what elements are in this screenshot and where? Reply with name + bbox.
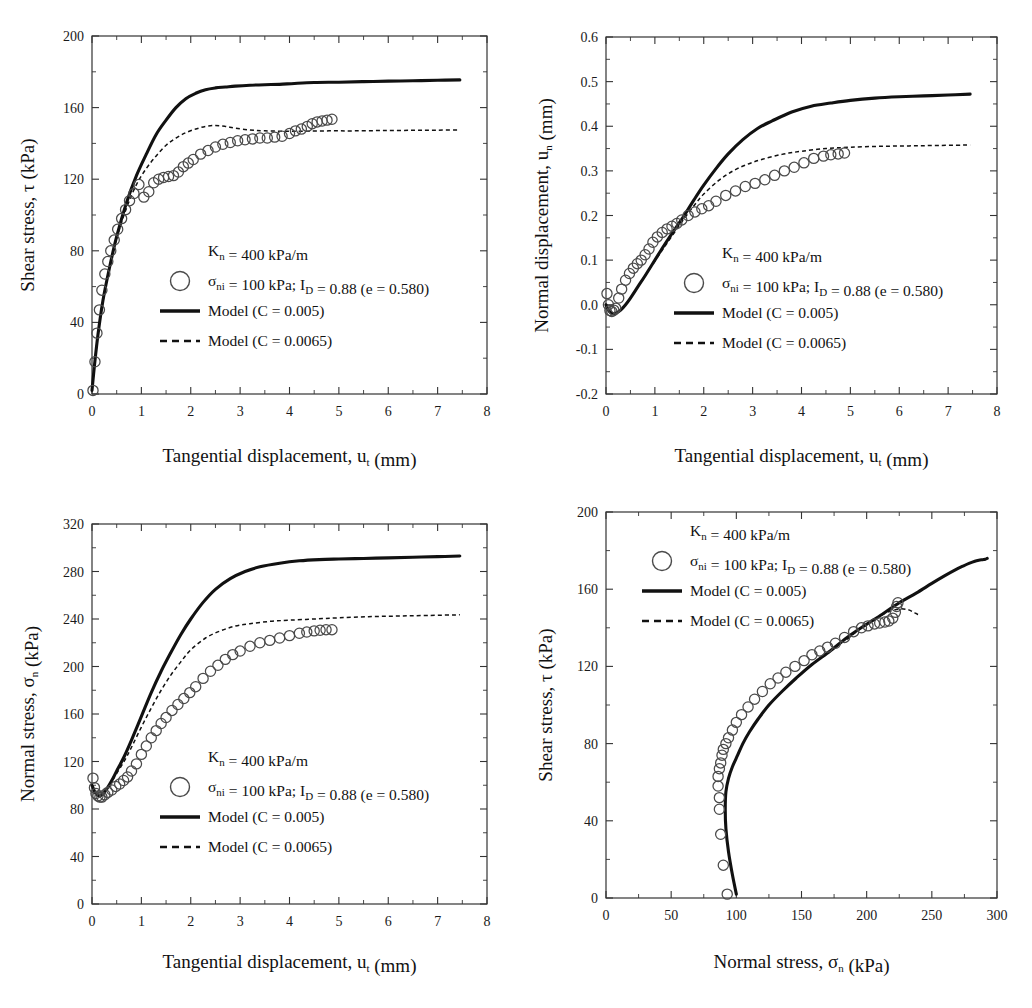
y-tick-label: 120 — [577, 659, 598, 674]
y-tick-label: -0.2 — [576, 387, 598, 402]
x-tick-label: 5 — [335, 914, 342, 929]
data-point-marker — [839, 148, 849, 158]
legend-specimen-label: σni = 100 kPa; ID = 0.88 (e = 0.580) — [722, 274, 943, 300]
y-tick-label: 240 — [63, 612, 84, 627]
y-tick-label: 160 — [63, 101, 84, 116]
data-point-marker — [167, 705, 177, 715]
data-point-marker — [789, 162, 799, 172]
x-tick-label: 0 — [89, 404, 96, 419]
legend-specimen-label: σni = 100 kPa; ID = 0.88 (e = 0.580) — [208, 778, 429, 804]
data-point-marker — [807, 650, 817, 660]
data-point-marker — [255, 638, 265, 648]
data-point-marker — [327, 625, 337, 635]
y-tick-label: 80 — [70, 802, 84, 817]
open-circle-icon — [171, 778, 190, 797]
data-point-marker — [284, 631, 294, 641]
y-tick-label: 320 — [63, 517, 84, 532]
x-tick-label: 7 — [434, 404, 441, 419]
legend-kn-label: Kn = 400 kPa/m — [690, 522, 790, 543]
data-point-marker — [718, 744, 728, 754]
data-point-marker — [131, 759, 141, 769]
x-tick-label: 1 — [651, 404, 658, 419]
y-tick-label: 200 — [63, 660, 84, 675]
x-tick-label: 2 — [700, 404, 707, 419]
data-point-marker — [602, 288, 612, 298]
y-tick-label: 80 — [584, 737, 598, 752]
data-point-marker — [815, 646, 825, 656]
x-tick-label: 5 — [847, 404, 854, 419]
data-point-marker — [822, 642, 832, 652]
x-tick-label: 6 — [385, 914, 392, 929]
x-tick-label: 6 — [896, 404, 903, 419]
data-point-marker — [770, 170, 780, 180]
x-tick-label: 8 — [484, 404, 491, 419]
data-point-marker — [809, 153, 819, 163]
y-axis-title: Shear stress, τ (kPa) — [535, 628, 557, 781]
data-point-marker — [134, 179, 144, 189]
x-tick-label: 2 — [187, 914, 194, 929]
x-tick-label: 250 — [921, 908, 942, 923]
y-tick-label: 0.3 — [581, 164, 599, 179]
data-point-marker — [179, 693, 189, 703]
data-point-marker — [818, 151, 828, 161]
x-tick-label: 3 — [237, 914, 244, 929]
legend-model-dashed-label: Model (C = 0.0065) — [690, 612, 814, 630]
x-tick-label: 0 — [603, 404, 610, 419]
x-tick-label: 7 — [434, 914, 441, 929]
legend-model-solid-label: Model (C = 0.005) — [208, 302, 324, 320]
x-tick-label: 1 — [138, 914, 145, 929]
open-circle-icon — [653, 552, 672, 571]
y-tick-label: 280 — [63, 565, 84, 580]
chart-svg-panel-c: 01234567804080120160200240280320Tangenti… — [0, 504, 516, 1008]
data-point-marker — [760, 175, 770, 185]
x-tick-label: 200 — [856, 908, 877, 923]
data-point-marker — [275, 633, 285, 643]
data-point-marker — [713, 781, 723, 791]
legend-model-solid-label: Model (C = 0.005) — [690, 582, 806, 600]
chart-svg-panel-d: 05010015020025030004080120160200Normal s… — [516, 504, 1032, 1008]
legend: Kn = 400 kPa/mσni = 100 kPa; ID = 0.88 (… — [642, 522, 911, 630]
data-point-marker — [730, 186, 740, 196]
y-tick-label: -0.1 — [576, 342, 598, 357]
y-tick-label: 120 — [63, 172, 84, 187]
data-point-marker — [151, 726, 161, 736]
x-axis-title: Tangential displacement, ut (mm) — [163, 445, 417, 471]
legend: Kn = 400 kPa/mσni = 100 kPa; ID = 0.88 (… — [674, 244, 943, 352]
data-point-marker — [321, 625, 331, 635]
figure-container: 01234567804080120160200Tangential displa… — [0, 0, 1032, 1008]
open-circle-icon — [171, 272, 190, 291]
data-point-marker — [714, 804, 724, 814]
axis-ticks: 01234567804080120160200 — [63, 29, 491, 419]
x-tick-label: 1 — [138, 404, 145, 419]
legend-kn-label: Kn = 400 kPa/m — [208, 748, 308, 769]
y-tick-label: 0.4 — [581, 119, 599, 134]
open-circle-icon — [685, 274, 704, 293]
data-point-marker — [191, 682, 201, 692]
y-tick-label: 200 — [63, 29, 84, 44]
x-tick-label: 2 — [187, 404, 194, 419]
model-curve-solid — [725, 558, 987, 894]
data-point-marker — [296, 124, 306, 134]
legend-kn-label: Kn = 400 kPa/m — [208, 242, 308, 263]
x-tick-label: 4 — [286, 404, 293, 419]
y-tick-label: 0.5 — [581, 75, 599, 90]
y-tick-label: 40 — [584, 814, 598, 829]
chart-svg-panel-b: 012345678-0.2-0.10.00.10.20.30.40.50.6Ta… — [516, 0, 1032, 504]
data-point-marker — [757, 686, 767, 696]
x-tick-label: 6 — [385, 404, 392, 419]
y-tick-label: 160 — [577, 582, 598, 597]
y-tick-label: 80 — [70, 244, 84, 259]
y-tick-label: 40 — [70, 850, 84, 865]
data-point-marker — [749, 694, 759, 704]
x-tick-label: 5 — [335, 404, 342, 419]
x-tick-label: 8 — [994, 404, 1001, 419]
y-tick-label: 0 — [77, 387, 84, 402]
legend-model-dashed-label: Model (C = 0.0065) — [208, 838, 332, 856]
y-axis-title: Normal stress, σn (kPa) — [17, 626, 43, 802]
data-point-marker — [781, 667, 791, 677]
x-tick-label: 50 — [664, 908, 678, 923]
data-point-marker — [740, 181, 750, 191]
y-tick-label: 0.6 — [581, 30, 599, 45]
x-axis-title: Tangential displacement, ut (mm) — [163, 951, 417, 977]
chart-svg-panel-a: 01234567804080120160200Tangential displa… — [0, 0, 516, 504]
